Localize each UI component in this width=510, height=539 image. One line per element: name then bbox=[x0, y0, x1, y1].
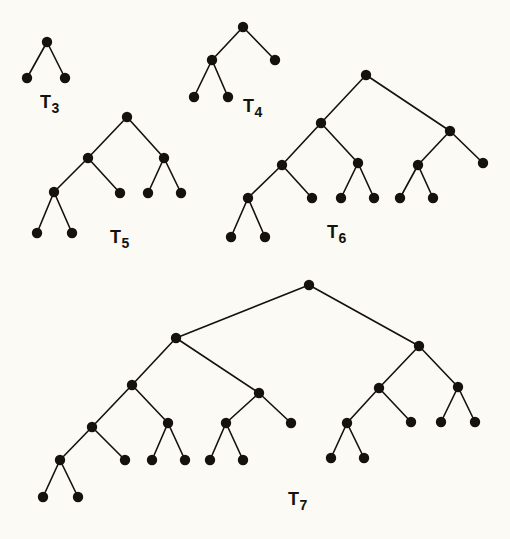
tree-node bbox=[42, 37, 52, 47]
tree-label-t5: T5 bbox=[110, 227, 130, 251]
tree-edge bbox=[441, 387, 458, 422]
tree-label-t4: T4 bbox=[243, 96, 263, 120]
tree-edge bbox=[88, 158, 120, 193]
tree-label-subscript: 3 bbox=[52, 100, 60, 116]
tree-node bbox=[38, 492, 48, 502]
tree-node-group bbox=[22, 37, 70, 83]
tree-node bbox=[49, 187, 59, 197]
tree-node bbox=[189, 92, 199, 102]
tree-edge bbox=[194, 60, 212, 97]
tree-edge bbox=[366, 75, 450, 131]
tree-t7: T7 bbox=[38, 280, 480, 513]
tree-node-group bbox=[226, 70, 488, 242]
tree-edge bbox=[419, 346, 458, 387]
tree-edge bbox=[127, 117, 164, 158]
tree-edge bbox=[321, 123, 358, 163]
tree-node bbox=[395, 193, 405, 203]
tree-edge-group bbox=[37, 117, 181, 233]
tree-edge bbox=[259, 393, 291, 423]
tree-edge bbox=[132, 338, 176, 385]
tree-label-letter: T bbox=[243, 96, 254, 116]
tree-node bbox=[147, 455, 157, 465]
tree-diagram-canvas: T3T4T5T6T7 bbox=[0, 0, 510, 539]
tree-node bbox=[180, 455, 190, 465]
tree-edge bbox=[243, 27, 275, 60]
tree-edge bbox=[54, 192, 72, 233]
tree-node bbox=[277, 160, 287, 170]
tree-node bbox=[316, 118, 326, 128]
tree-node bbox=[87, 422, 97, 432]
tree-node bbox=[336, 193, 346, 203]
tree-edge-group bbox=[231, 75, 483, 237]
tree-edge bbox=[418, 165, 433, 198]
tree-node bbox=[342, 418, 352, 428]
tree-node-group bbox=[32, 112, 186, 238]
tree-label-subscript: 4 bbox=[255, 104, 263, 120]
tree-node bbox=[254, 388, 264, 398]
tree-node bbox=[143, 188, 153, 198]
tree-edge bbox=[341, 163, 358, 198]
tree-node bbox=[238, 22, 248, 32]
tree-edge bbox=[164, 158, 181, 193]
tree-node bbox=[436, 417, 446, 427]
tree-node bbox=[122, 112, 132, 122]
tree-node bbox=[60, 73, 70, 83]
tree-edge bbox=[176, 285, 309, 338]
tree-edge bbox=[450, 131, 483, 163]
tree-node bbox=[445, 126, 455, 136]
tree-label-subscript: 7 bbox=[300, 497, 308, 513]
tree-node bbox=[369, 193, 379, 203]
tree-node bbox=[260, 232, 270, 242]
tree-edge bbox=[231, 198, 248, 237]
tree-label-letter: T bbox=[110, 227, 121, 247]
tree-edge bbox=[400, 165, 418, 198]
tree-edge bbox=[379, 388, 411, 422]
tree-edge bbox=[152, 423, 168, 460]
tree-node bbox=[32, 228, 42, 238]
tree-node bbox=[205, 455, 215, 465]
tree-label-t6: T6 bbox=[327, 222, 347, 246]
tree-edge bbox=[27, 42, 47, 78]
tree-edge bbox=[92, 427, 125, 460]
tree-node bbox=[361, 70, 371, 80]
tree-edge bbox=[379, 346, 419, 388]
tree-node bbox=[326, 453, 336, 463]
tree-node bbox=[73, 492, 83, 502]
tree-edge bbox=[248, 165, 282, 198]
tree-node bbox=[127, 380, 137, 390]
tree-edge bbox=[358, 163, 374, 198]
tree-edge-group bbox=[194, 27, 275, 97]
tree-label-letter: T bbox=[288, 489, 299, 509]
tree-edge bbox=[347, 423, 364, 458]
tree-edge bbox=[47, 42, 65, 78]
tree-edge bbox=[60, 460, 78, 497]
tree-label-t3: T3 bbox=[40, 92, 60, 116]
tree-t3: T3 bbox=[22, 37, 70, 116]
tree-edge bbox=[168, 423, 185, 460]
tree-edge bbox=[309, 285, 419, 346]
tree-node bbox=[159, 153, 169, 163]
tree-label-subscript: 6 bbox=[339, 230, 347, 246]
tree-node bbox=[243, 193, 253, 203]
tree-node bbox=[428, 193, 438, 203]
tree-edge bbox=[226, 423, 243, 460]
tree-node bbox=[120, 455, 130, 465]
tree-edge bbox=[321, 75, 366, 123]
tree-node bbox=[478, 158, 488, 168]
tree-edge bbox=[54, 158, 88, 192]
tree-edge bbox=[212, 27, 243, 60]
tree-node bbox=[286, 418, 296, 428]
tree-edge bbox=[418, 131, 450, 165]
tree-label-t7: T7 bbox=[288, 489, 308, 513]
tree-node bbox=[207, 55, 217, 65]
tree-edge bbox=[248, 198, 265, 237]
tree-edge bbox=[37, 192, 54, 233]
tree-node-group bbox=[38, 280, 480, 502]
tree-node bbox=[176, 188, 186, 198]
tree-node bbox=[163, 418, 173, 428]
tree-edge bbox=[331, 423, 347, 458]
tree-node bbox=[414, 341, 424, 351]
tree-edge bbox=[60, 427, 92, 460]
tree-node bbox=[238, 455, 248, 465]
tree-node bbox=[374, 383, 384, 393]
